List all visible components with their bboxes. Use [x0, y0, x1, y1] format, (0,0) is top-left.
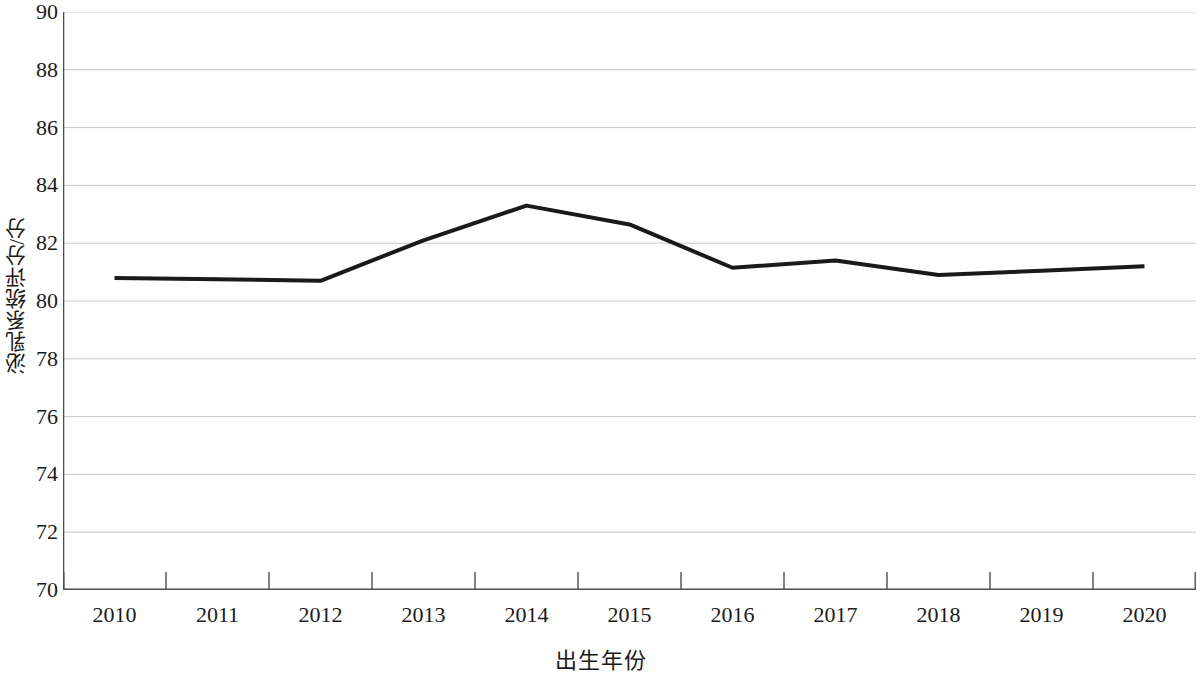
y-tick-label: 90: [2, 1, 58, 23]
plot-area: [63, 12, 1196, 590]
x-axis-ticks: [64, 572, 1195, 590]
x-tick-label: 2011: [196, 604, 239, 626]
y-tick-label: 80: [2, 290, 58, 312]
y-tick-label: 74: [2, 463, 58, 485]
y-tick-label: 78: [2, 348, 58, 370]
y-tick-label: 76: [2, 406, 58, 428]
x-tick-label: 2018: [917, 604, 961, 626]
x-tick-label: 2016: [711, 604, 755, 626]
x-axis-tick-labels: 2010201120122013201420152016201720182019…: [63, 604, 1196, 638]
y-tick-label: 82: [2, 232, 58, 254]
x-tick-label: 2014: [505, 604, 549, 626]
x-tick-label: 2019: [1020, 604, 1064, 626]
x-tick-label: 2012: [299, 604, 343, 626]
x-axis-title: 出生年份: [0, 650, 1201, 672]
x-tick-label: 2020: [1123, 604, 1167, 626]
line-chart: 泌乳系统评分/分 7072747678808284868890 20102011…: [0, 0, 1201, 690]
y-axis-tick-labels: 7072747678808284868890: [0, 0, 58, 690]
x-tick-label: 2010: [93, 604, 137, 626]
x-tick-label: 2017: [814, 604, 858, 626]
y-tick-label: 88: [2, 59, 58, 81]
plot-svg: [63, 12, 1196, 590]
y-tick-label: 70: [2, 579, 58, 601]
y-tick-label: 86: [2, 117, 58, 139]
x-tick-label: 2013: [402, 604, 446, 626]
y-tick-label: 72: [2, 521, 58, 543]
y-tick-label: 84: [2, 174, 58, 196]
x-tick-label: 2015: [608, 604, 652, 626]
